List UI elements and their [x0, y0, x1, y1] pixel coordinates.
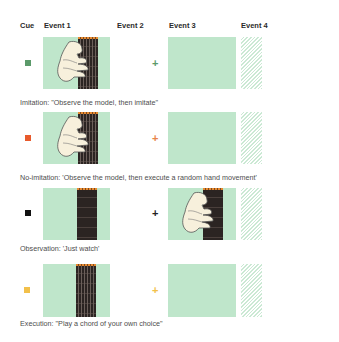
event3-panel	[168, 112, 236, 164]
caption-imitation: Imitation: "Observe the model, then imit…	[20, 98, 158, 107]
cue-square-yellow	[24, 287, 30, 293]
event1-panel	[43, 112, 110, 164]
hand-icon	[55, 40, 93, 85]
event4-hatched	[241, 112, 262, 164]
header-event-3: Event 3	[169, 21, 196, 30]
event3-panel	[168, 37, 236, 89]
header-cue: Cue	[20, 21, 34, 30]
nut	[77, 188, 97, 190]
fretboard	[76, 264, 96, 317]
event1-panel	[43, 188, 110, 240]
fixation-cross: +	[152, 133, 158, 143]
hand-icon	[55, 115, 93, 160]
caption-observation: Observation: 'Just watch'	[20, 244, 99, 253]
fixation-cross: +	[152, 58, 158, 68]
event3-panel	[168, 264, 236, 317]
nut	[76, 264, 96, 266]
event4-hatched	[241, 37, 262, 89]
header-event-4: Event 4	[241, 21, 268, 30]
event1-panel	[43, 37, 110, 89]
cue-square-green	[25, 60, 31, 66]
hand-icon	[180, 191, 218, 236]
nut	[78, 112, 98, 114]
nut	[203, 188, 223, 190]
fixation-cross: +	[152, 208, 158, 218]
event4-hatched	[241, 264, 262, 317]
caption-execution: Execution: "Play a chord of your own cho…	[20, 319, 163, 328]
nut	[78, 37, 98, 39]
event4-hatched	[241, 188, 262, 240]
fixation-cross: +	[152, 285, 158, 295]
header-event-1: Event 1	[44, 21, 71, 30]
header-event-2: Event 2	[117, 21, 144, 30]
event1-panel	[43, 264, 110, 317]
cue-square-red	[25, 135, 31, 141]
caption-no-imitation: No-imitation: 'Observe the model, then e…	[20, 173, 257, 182]
fretboard	[77, 188, 97, 240]
event3-panel	[168, 188, 236, 240]
cue-square-black	[25, 210, 31, 216]
